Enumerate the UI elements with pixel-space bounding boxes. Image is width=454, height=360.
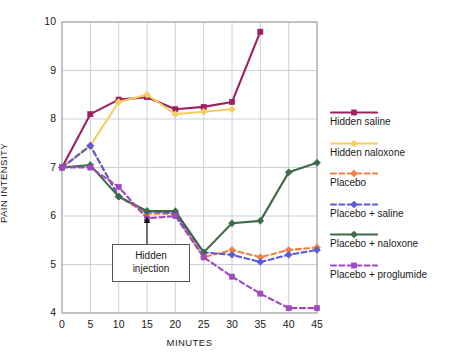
legend-swatch-diamond-icon [330,135,378,146]
y-tick-label: 4 [26,306,56,318]
legend-swatch-diamond-icon [330,226,378,237]
legend-item[interactable]: Hidden saline [330,104,454,128]
legend-label: Hidden saline [330,116,454,128]
legend-label: Placebo + naloxone [330,238,454,250]
x-tick-label: 15 [132,318,162,330]
x-tick-label: 25 [189,318,219,330]
legend-item[interactable]: Placebo + naloxone [330,226,454,250]
x-tick-label: 20 [160,318,190,330]
x-tick-label: 45 [302,318,332,330]
annotation-line-2: injection [133,263,170,274]
y-tick-label: 9 [26,64,56,76]
y-axis-title: PAIN INTENSITY [0,118,9,248]
legend-item[interactable]: Hidden naloxone [330,135,454,159]
pain-intensity-line-chart: PAIN INTENSITY 45678910 0510152025303540… [0,0,454,360]
x-tick-label: 40 [274,318,304,330]
x-tick-label: 30 [217,318,247,330]
legend-item[interactable]: Placebo + proglumide [330,257,454,281]
y-tick-label: 8 [26,112,56,124]
x-axis-title: MINUTES [62,337,317,348]
legend-swatch-diamond-icon [330,196,378,207]
legend-label: Placebo + saline [330,208,454,220]
legend-item[interactable]: Placebo + saline [330,196,454,220]
annotation-line-1: Hidden [135,250,167,261]
legend-item[interactable]: Placebo [330,165,454,189]
x-tick-label: 0 [47,318,77,330]
legend-swatch-square-icon [330,104,378,115]
x-tick-label: 35 [245,318,275,330]
x-tick-label: 10 [104,318,134,330]
legend-swatch-square-icon [330,257,378,268]
y-tick-label: 10 [26,15,56,27]
legend-label: Placebo + proglumide [330,269,454,281]
legend-label: Placebo [330,177,454,189]
chart-legend: Hidden salineHidden naloxonePlaceboPlace… [330,104,454,287]
legend-swatch-diamond-icon [330,165,378,176]
x-tick-label: 5 [75,318,105,330]
hidden-injection-annotation: Hidden injection [112,244,190,282]
legend-label: Hidden naloxone [330,147,454,159]
y-tick-label: 7 [26,161,56,173]
y-tick-label: 5 [26,258,56,270]
y-tick-label: 6 [26,209,56,221]
